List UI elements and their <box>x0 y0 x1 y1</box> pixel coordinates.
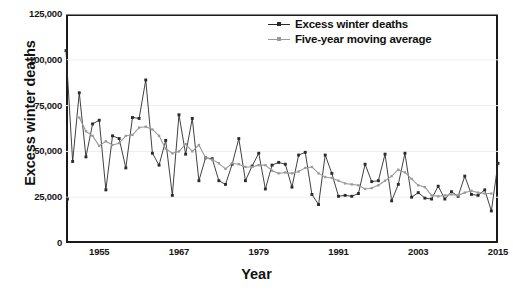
data-series-group <box>65 49 500 212</box>
y-tick-label: 75,000 <box>6 101 62 111</box>
data-point-marker <box>357 192 360 195</box>
data-point-marker <box>158 135 160 137</box>
data-point-marker <box>98 145 100 147</box>
data-point-marker <box>197 179 200 182</box>
data-point-marker <box>271 164 274 167</box>
data-point-marker <box>264 188 267 191</box>
data-point-marker <box>464 191 466 193</box>
data-point-marker <box>297 170 299 172</box>
data-point-marker <box>125 135 127 137</box>
data-point-marker <box>258 164 260 166</box>
data-point-marker <box>78 91 81 94</box>
data-point-marker <box>84 155 87 158</box>
series-line <box>79 118 491 197</box>
y-tick-label: 125,000 <box>6 9 62 19</box>
data-point-marker <box>437 185 440 188</box>
data-point-marker <box>377 184 379 186</box>
data-point-marker <box>444 194 446 196</box>
data-point-marker <box>404 152 407 155</box>
data-point-marker <box>430 194 432 196</box>
data-point-marker <box>71 160 74 163</box>
data-point-marker <box>171 152 173 154</box>
data-point-marker <box>218 162 220 164</box>
data-point-marker <box>297 154 300 157</box>
data-point-marker <box>105 140 107 142</box>
data-point-marker <box>423 197 426 200</box>
data-point-marker <box>337 180 339 182</box>
data-point-marker <box>351 183 353 185</box>
data-point-marker <box>131 134 133 136</box>
data-point-marker <box>484 192 486 194</box>
y-tick-label: 100,000 <box>6 55 62 65</box>
x-tick-label: 1979 <box>249 247 269 257</box>
data-point-marker <box>410 196 413 199</box>
data-point-marker <box>85 130 87 132</box>
data-point-marker <box>364 188 366 190</box>
data-point-marker <box>124 166 127 169</box>
data-point-marker <box>251 166 253 168</box>
data-point-marker <box>291 186 294 189</box>
data-point-marker <box>291 172 293 174</box>
data-point-marker <box>151 152 154 155</box>
data-point-marker <box>490 192 492 194</box>
data-point-marker <box>477 194 480 197</box>
data-point-marker <box>238 163 240 165</box>
data-point-marker <box>91 135 93 137</box>
y-axis-tick-labels: 025,00050,00075,000100,000125,000 <box>0 0 62 293</box>
data-point-marker <box>164 139 167 142</box>
data-point-marker <box>337 195 340 198</box>
data-point-marker <box>390 199 393 202</box>
data-point-marker <box>324 154 327 157</box>
data-point-marker <box>104 188 107 191</box>
data-point-marker <box>450 193 452 195</box>
data-point-marker <box>78 116 80 118</box>
data-point-marker <box>178 150 180 152</box>
data-point-marker <box>271 169 273 171</box>
data-point-marker <box>364 163 367 166</box>
data-point-marker <box>490 209 493 212</box>
data-point-marker <box>277 161 280 164</box>
data-point-marker <box>357 184 359 186</box>
data-point-marker <box>404 171 406 173</box>
x-tick-label: 1955 <box>89 247 109 257</box>
data-point-marker <box>317 172 319 174</box>
data-point-marker <box>437 195 439 197</box>
data-point-marker <box>344 194 347 197</box>
data-point-marker <box>410 178 412 180</box>
data-point-marker <box>158 164 161 167</box>
data-point-marker <box>457 194 459 196</box>
data-point-marker <box>377 179 380 182</box>
data-point-marker <box>443 198 446 201</box>
chart-legend: Excess winter deathsFive-year moving ave… <box>268 18 431 45</box>
data-point-marker <box>151 128 153 130</box>
x-tick-label: 2015 <box>488 247 508 257</box>
data-point-marker <box>463 175 466 178</box>
y-tick-label: 25,000 <box>6 192 62 202</box>
data-point-marker <box>145 126 147 128</box>
data-point-marker <box>450 190 453 193</box>
data-point-marker <box>211 158 213 160</box>
data-point-marker <box>191 117 194 120</box>
data-point-marker <box>424 186 426 188</box>
legend-item: Excess winter deaths <box>268 18 431 30</box>
data-point-marker <box>237 137 240 140</box>
legend-label: Excess winter deaths <box>295 18 408 30</box>
data-point-marker <box>138 126 140 128</box>
data-point-marker <box>331 177 333 179</box>
data-point-marker <box>397 183 400 186</box>
data-point-marker <box>198 144 200 146</box>
data-point-marker <box>477 191 479 193</box>
data-point-marker <box>311 166 313 168</box>
data-point-marker <box>497 162 500 165</box>
series-five-year-moving-average <box>78 116 492 197</box>
data-point-marker <box>217 179 220 182</box>
data-point-marker <box>304 167 306 169</box>
plot-canvas <box>66 14 498 243</box>
data-point-marker <box>397 169 399 171</box>
y-tick-label: 50,000 <box>6 146 62 156</box>
data-point-marker <box>111 134 114 137</box>
legend-item: Five-year moving average <box>268 33 431 45</box>
data-point-marker <box>384 153 387 156</box>
x-tick-label: 1991 <box>328 247 348 257</box>
data-point-marker <box>131 116 134 119</box>
